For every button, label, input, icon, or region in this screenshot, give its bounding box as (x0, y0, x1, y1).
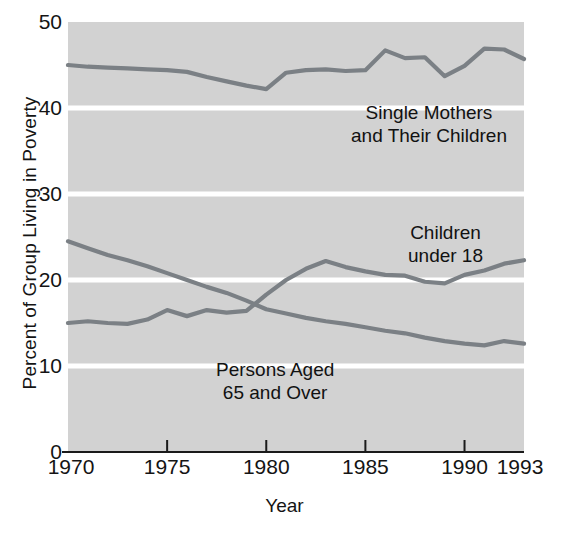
series-annotation-2: Persons Aged 65 and Over (216, 358, 334, 404)
series-annotation-1: Children under 18 (408, 221, 483, 267)
x-tick-label: 1985 (330, 456, 400, 477)
series-annotation-0: Single Mothers and Their Children (351, 101, 507, 147)
x-tick-label: 1975 (132, 456, 202, 477)
x-tick-label: 1970 (36, 456, 106, 477)
x-tick-label: 1993 (485, 456, 555, 477)
y-axis-title: Percent of Group Living in Poverty (19, 17, 41, 469)
x-tick-label: 1980 (231, 456, 301, 477)
poverty-trend-chart (0, 0, 569, 533)
chart-canvas (0, 0, 569, 533)
x-axis-title: Year (0, 495, 569, 517)
